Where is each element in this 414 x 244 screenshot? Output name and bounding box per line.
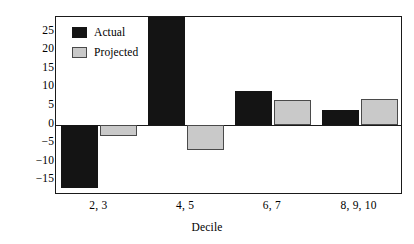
bar-chart-figure: 2520151050−5−10−15 2, 34, 56, 78, 9, 10 … <box>0 0 414 244</box>
x-axis-tick-label: 8, 9, 10 <box>341 200 377 212</box>
bar-projected <box>187 125 224 151</box>
legend: Actual Projected <box>72 24 138 64</box>
y-axis-tick-label: 25 <box>0 25 62 37</box>
x-axis-tick-label: 2, 3 <box>89 200 107 212</box>
bar-actual <box>148 16 185 125</box>
bar-actual <box>322 110 359 125</box>
bar-projected <box>361 99 398 125</box>
x-axis-tick-label: 4, 5 <box>176 200 194 212</box>
bar-projected <box>100 125 137 136</box>
y-axis-tick-label: 10 <box>0 81 62 93</box>
bar-projected <box>274 100 311 124</box>
legend-label-actual: Actual <box>94 27 125 39</box>
bar-actual <box>235 91 272 124</box>
x-axis-label: Decile <box>0 221 414 233</box>
y-axis-tick-label: −5 <box>0 136 62 148</box>
legend-label-projected: Projected <box>94 47 138 59</box>
y-axis-tick-label: −10 <box>0 155 62 167</box>
legend-swatch-actual <box>72 27 87 38</box>
y-axis-tick-label: −15 <box>0 173 62 185</box>
y-axis-tick-label: 0 <box>0 118 62 130</box>
legend-swatch-projected <box>72 47 87 58</box>
bar-actual <box>61 125 98 188</box>
x-axis-tick-label: 6, 7 <box>263 200 281 212</box>
legend-item-actual: Actual <box>72 24 138 41</box>
y-axis-tick-label: 15 <box>0 62 62 74</box>
y-axis-tick-label: 20 <box>0 44 62 56</box>
legend-item-projected: Projected <box>72 44 138 61</box>
y-axis-tick-label: 5 <box>0 99 62 111</box>
